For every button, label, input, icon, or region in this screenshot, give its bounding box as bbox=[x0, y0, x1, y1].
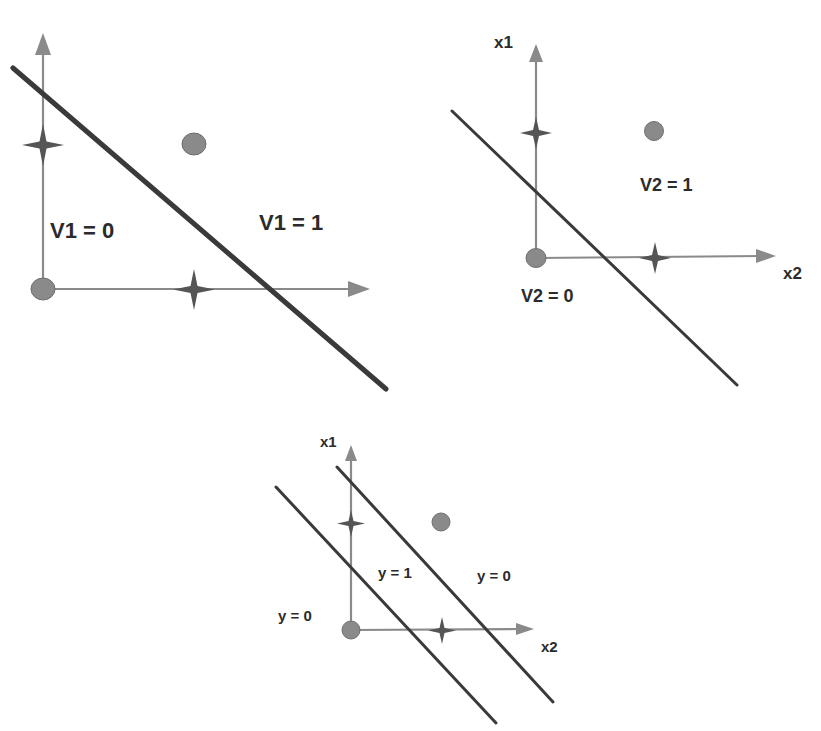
x-axis-arrow-icon bbox=[348, 281, 370, 297]
point-1-0-star-marker bbox=[639, 242, 671, 274]
panel-y-y-axis-label: x1 bbox=[320, 433, 337, 450]
panel-y-y-axis bbox=[345, 445, 357, 630]
point-1-0-star-marker bbox=[428, 617, 456, 644]
panel-v2-y-axis bbox=[529, 44, 543, 258]
panel-y: x1 x2 y = 0 y = 1 y = 0 bbox=[276, 433, 558, 723]
point-0-1-star-marker bbox=[520, 117, 552, 149]
panel-y-region-middle-label: y = 1 bbox=[378, 564, 412, 581]
point-1-1-circle-marker bbox=[182, 133, 206, 155]
panel-v2-decision-boundary bbox=[452, 111, 737, 385]
xor-decision-boundary-diagram: V1 = 0 V1 = 1 x1 x2 bbox=[0, 0, 821, 731]
point-0-1-star-marker bbox=[337, 510, 365, 537]
panel-v1-region-left-label: V1 = 0 bbox=[50, 218, 114, 243]
panel-y-region-outer-right-label: y = 0 bbox=[477, 567, 511, 584]
panel-y-region-outer-left-label: y = 0 bbox=[278, 607, 312, 624]
panel-v2-y-axis-label: x1 bbox=[494, 33, 513, 52]
y-axis-arrow-icon bbox=[529, 44, 543, 62]
y-axis-arrow-icon bbox=[345, 445, 357, 461]
panel-v2: x1 x2 V2 = 0 V2 = 1 bbox=[452, 33, 802, 385]
point-1-0-star-marker bbox=[173, 269, 215, 310]
panel-v1-region-right-label: V1 = 1 bbox=[259, 210, 323, 235]
figure-canvas: V1 = 0 V1 = 1 x1 x2 bbox=[0, 0, 821, 731]
panel-v2-region-below-label: V2 = 0 bbox=[521, 286, 574, 306]
point-1-1-circle-marker bbox=[645, 122, 664, 141]
x-axis-arrow-icon bbox=[516, 623, 534, 635]
panel-v1: V1 = 0 V1 = 1 bbox=[13, 33, 386, 389]
point-0-0-circle-marker bbox=[342, 621, 360, 639]
panel-v2-region-above-label: V2 = 1 bbox=[640, 175, 693, 195]
point-0-1-star-marker bbox=[22, 124, 64, 166]
y-axis-arrow-icon bbox=[35, 33, 51, 55]
point-0-0-circle-marker bbox=[526, 249, 546, 268]
point-1-1-circle-marker bbox=[432, 513, 450, 531]
point-0-0-circle-marker bbox=[31, 278, 55, 300]
panel-v2-x-axis-label: x2 bbox=[783, 264, 802, 283]
panel-y-x-axis-label: x2 bbox=[541, 638, 558, 655]
x-axis-arrow-icon bbox=[756, 249, 776, 263]
